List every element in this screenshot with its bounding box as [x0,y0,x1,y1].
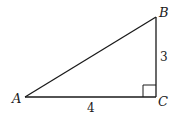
side-ab [25,17,156,97]
right-angle-marker [143,85,156,97]
side-label-bc: 3 [160,50,168,64]
vertex-label-c: C [158,94,168,109]
vertex-label-a: A [11,91,21,106]
vertex-label-b: B [158,5,169,20]
right-triangle-diagram: A B C 3 4 [0,0,178,122]
side-label-ac: 4 [87,101,95,115]
